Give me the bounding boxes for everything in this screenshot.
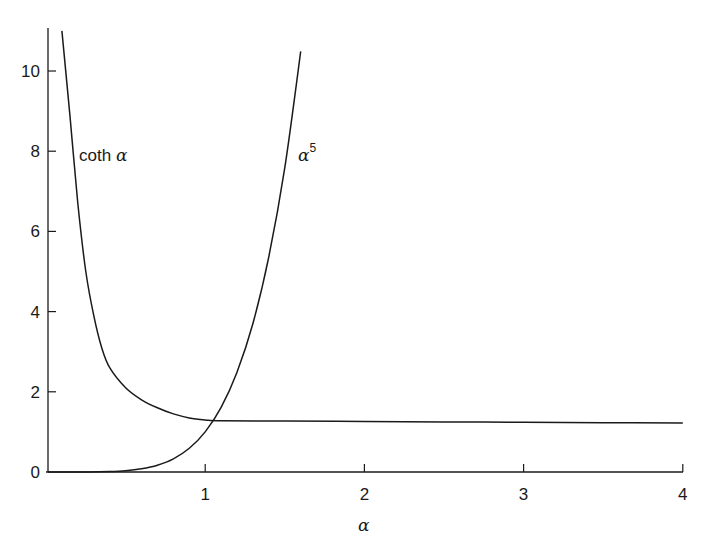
- y-tick-label: 6: [31, 222, 40, 241]
- y-ticks: 0246810: [21, 62, 56, 482]
- curves: [46, 31, 683, 472]
- y-tick-label: 10: [21, 62, 40, 81]
- y-tick-label: 4: [31, 303, 40, 322]
- x-tick-label: 2: [360, 485, 369, 504]
- y-tick-label: 8: [31, 142, 40, 161]
- x-ticks: 1234: [200, 464, 687, 504]
- coth-curve: [62, 31, 683, 423]
- y-tick-label: 0: [31, 463, 40, 482]
- alpha-power-label: α5: [298, 141, 316, 165]
- x-axis-label: α: [358, 515, 370, 535]
- x-tick-label: 1: [200, 485, 209, 504]
- x-tick-label: 4: [678, 485, 687, 504]
- x-tick-label: 3: [519, 485, 528, 504]
- chart-figure: 0246810 1234 coth α α5 α: [0, 0, 705, 547]
- axes: [48, 28, 683, 472]
- coth-label: coth α: [79, 145, 128, 165]
- y-tick-label: 2: [31, 383, 40, 402]
